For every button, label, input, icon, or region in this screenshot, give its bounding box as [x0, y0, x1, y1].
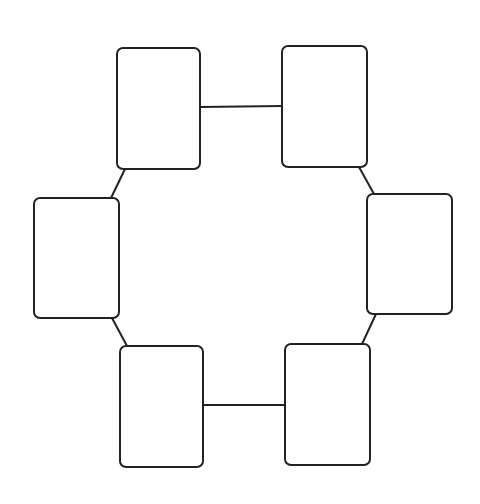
connector-top-left-to-top-right	[200, 106, 282, 107]
box-bottom-right	[285, 344, 370, 465]
boxes	[34, 46, 452, 467]
ring-diagram	[0, 0, 480, 504]
connector-middle-left-to-top-left	[111, 169, 125, 198]
box-top-right	[282, 46, 367, 167]
box-middle-right-frame	[367, 194, 452, 314]
box-bottom-left-frame	[120, 346, 203, 467]
box-middle-left-frame	[34, 198, 119, 318]
box-bottom-right-frame	[285, 344, 370, 465]
box-top-left	[117, 48, 200, 169]
box-middle-left	[34, 198, 119, 318]
connector-middle-right-to-bottom-right	[362, 314, 376, 344]
box-top-right-frame	[282, 46, 367, 167]
connector-top-right-to-middle-right	[359, 167, 374, 194]
box-middle-right	[367, 194, 452, 314]
box-top-left-frame	[117, 48, 200, 169]
box-bottom-left	[120, 346, 203, 467]
connector-bottom-left-to-middle-left	[112, 318, 127, 346]
